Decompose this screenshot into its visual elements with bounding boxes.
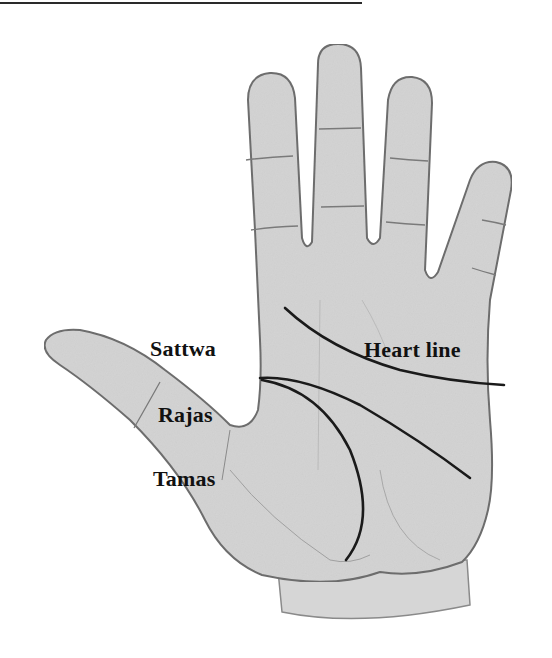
label-rajas: Rajas (158, 402, 213, 428)
hand-outline (45, 44, 512, 582)
label-heart-line: Heart line (364, 337, 461, 363)
hand-illustration (0, 0, 552, 658)
label-tamas: Tamas (153, 466, 216, 492)
label-sattwa: Sattwa (150, 336, 216, 362)
